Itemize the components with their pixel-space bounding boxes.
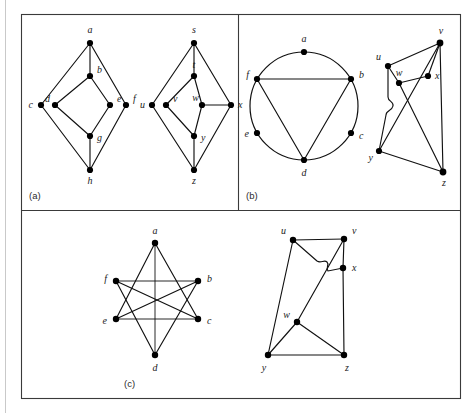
figure-root: a b c d e f g h bbox=[0, 0, 476, 413]
edge-v-z bbox=[440, 43, 443, 172]
node-y bbox=[265, 352, 271, 358]
node-d bbox=[52, 102, 58, 108]
label-vertex-w: w bbox=[283, 309, 290, 320]
edge-w-y bbox=[268, 322, 297, 355]
label-vertex-d: d bbox=[45, 93, 51, 104]
edge-d-b bbox=[155, 281, 198, 355]
label-vertex-y: y bbox=[261, 362, 267, 373]
node-e bbox=[254, 130, 260, 136]
node-w bbox=[294, 319, 300, 325]
edge-w-z bbox=[297, 322, 344, 355]
figure-outer-frame bbox=[22, 15, 461, 399]
label-vertex-y: y bbox=[200, 132, 206, 143]
label-vertex-d: d bbox=[153, 362, 159, 373]
node-x bbox=[425, 73, 431, 79]
node-t bbox=[191, 73, 197, 79]
label-vertex-a: a bbox=[302, 33, 307, 44]
edge-w-z bbox=[399, 83, 443, 172]
label-vertex-e: e bbox=[117, 93, 122, 104]
node-e bbox=[113, 316, 119, 322]
label-vertex-b: b bbox=[207, 273, 212, 284]
label-vertex-x: x bbox=[237, 99, 243, 110]
node-a bbox=[87, 40, 93, 46]
node-b bbox=[348, 76, 354, 82]
panel-label-b: (b) bbox=[246, 190, 258, 201]
edge-d-f bbox=[116, 281, 155, 355]
node-w bbox=[199, 102, 205, 108]
graph-b-left-circle: a b c d e f bbox=[245, 33, 364, 178]
edge-y-z bbox=[379, 151, 443, 172]
node-f bbox=[123, 102, 129, 108]
node-g bbox=[87, 133, 93, 139]
node-c bbox=[348, 130, 354, 136]
label-vertex-z: z bbox=[191, 175, 196, 186]
graph-a-right: s t u v w x y z bbox=[140, 24, 243, 186]
label-vertex-t: t bbox=[193, 59, 196, 70]
edge-t-v bbox=[166, 76, 194, 105]
node-u bbox=[290, 237, 296, 243]
node-u bbox=[149, 102, 155, 108]
edge-f-h bbox=[90, 105, 126, 170]
label-vertex-f: f bbox=[104, 273, 108, 284]
edge-u-y bbox=[268, 240, 293, 355]
label-vertex-g: g bbox=[97, 132, 102, 143]
figure-canvas: a b c d e f g h bbox=[0, 0, 476, 413]
label-vertex-c: c bbox=[359, 130, 364, 141]
label-vertex-y: y bbox=[368, 152, 374, 163]
node-x bbox=[228, 102, 234, 108]
node-v bbox=[163, 102, 169, 108]
graph-c-left-star: a b c d e f bbox=[103, 225, 212, 373]
label-vertex-u: u bbox=[140, 99, 145, 110]
edge-b-e bbox=[90, 76, 110, 105]
node-w bbox=[396, 80, 402, 86]
edge-v-y bbox=[166, 105, 194, 136]
label-vertex-c: c bbox=[29, 99, 34, 110]
node-c bbox=[38, 102, 44, 108]
edge-f-d bbox=[257, 79, 304, 160]
edge-w-x bbox=[399, 76, 428, 83]
label-vertex-x: x bbox=[351, 262, 357, 273]
node-e bbox=[107, 102, 113, 108]
label-vertex-e: e bbox=[103, 315, 108, 326]
label-vertex-z: z bbox=[441, 177, 446, 188]
edge-v-x bbox=[343, 239, 344, 268]
graph-b-right: u v w x y z bbox=[368, 25, 447, 188]
edge-u-v bbox=[388, 43, 440, 66]
node-f bbox=[113, 278, 119, 284]
node-d bbox=[301, 157, 307, 163]
node-u bbox=[385, 63, 391, 69]
label-vertex-v: v bbox=[352, 225, 357, 236]
label-vertex-d: d bbox=[302, 167, 308, 178]
node-a bbox=[152, 240, 158, 246]
node-a bbox=[301, 49, 307, 55]
edge-u-v bbox=[293, 239, 344, 240]
node-b bbox=[87, 73, 93, 79]
node-z bbox=[191, 167, 197, 173]
node-v bbox=[341, 236, 347, 242]
edge-u-z bbox=[152, 105, 194, 170]
label-vertex-a: a bbox=[153, 225, 158, 236]
node-y bbox=[191, 133, 197, 139]
label-vertex-b: b bbox=[359, 69, 364, 80]
graph-c-right: u v w x y z bbox=[261, 225, 357, 373]
circle-outline bbox=[250, 52, 358, 160]
label-vertex-s: s bbox=[192, 24, 196, 35]
edge-u-x-with-bridge bbox=[293, 240, 343, 271]
node-x bbox=[340, 265, 346, 271]
node-s bbox=[191, 40, 197, 46]
label-vertex-v: v bbox=[439, 25, 444, 36]
node-f bbox=[254, 76, 260, 82]
edge-x-z bbox=[343, 268, 344, 355]
node-z bbox=[440, 169, 447, 176]
panel-label-c: (c) bbox=[124, 378, 135, 389]
graph-a-left: a b c d e f g h bbox=[29, 24, 137, 186]
label-vertex-e: e bbox=[245, 128, 250, 139]
label-vertex-u: u bbox=[281, 225, 286, 236]
label-vertex-c: c bbox=[207, 315, 212, 326]
node-d bbox=[152, 352, 158, 358]
label-vertex-z: z bbox=[344, 362, 349, 373]
node-v bbox=[437, 40, 444, 47]
node-c bbox=[195, 316, 201, 322]
edge-b-d bbox=[304, 79, 351, 160]
label-vertex-w: w bbox=[192, 92, 199, 103]
